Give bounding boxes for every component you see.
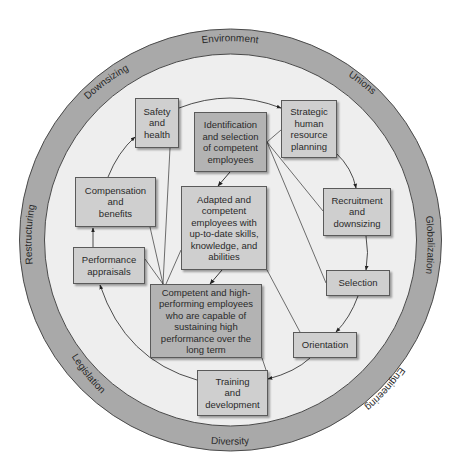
box-adapted-competent: Adapted and competent employees with up-… bbox=[181, 186, 267, 270]
box-recruitment-downsizing: Recruitment and downsizing bbox=[323, 188, 391, 236]
box-selection: Selection bbox=[326, 270, 390, 296]
box-training-development: Training and development bbox=[197, 370, 268, 416]
box-identification-selection: Identification and selection of competen… bbox=[194, 112, 267, 172]
box-performance-appraisals: Performance appraisals bbox=[73, 247, 145, 284]
box-orientation: Orientation bbox=[293, 332, 357, 358]
hrm-process-diagram: Environment Unions Globalization Enginee… bbox=[0, 0, 457, 473]
box-compensation-benefits: Compensation and benefits bbox=[75, 177, 156, 227]
box-safety-health: Safety and health bbox=[135, 98, 179, 148]
box-competent-high-performing: Competent and high- performing employees… bbox=[150, 284, 262, 358]
ring-label-diversity: Diversity bbox=[211, 435, 250, 447]
box-strategic-hr-planning: Strategic human resource planning bbox=[281, 100, 337, 158]
